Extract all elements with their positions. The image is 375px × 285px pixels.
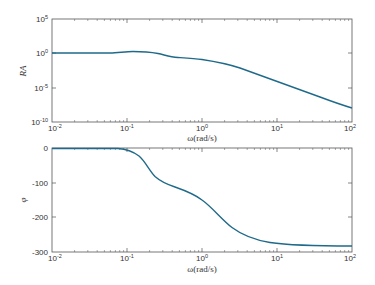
magnitude-y-ticks bbox=[52, 53, 352, 88]
magnitude-xtick-1e-1: 10-1 bbox=[120, 123, 134, 133]
magnitude-xlabel: ω(rad/s) bbox=[187, 133, 216, 143]
magnitude-ytick-1e-5: 10-5 bbox=[34, 83, 48, 93]
phase-xlabel: ω(rad/s) bbox=[187, 264, 216, 274]
phase-xtick-1e2: 102 bbox=[344, 253, 356, 263]
magnitude-ytick-1e-10: 10-10 bbox=[31, 117, 48, 127]
phase-ytick-neg100: -100 bbox=[32, 179, 49, 188]
magnitude-ytick-1e5: 105 bbox=[36, 14, 48, 24]
bode-figure: 105 100 10-5 10-10 10-2 10-1 100 101 102… bbox=[0, 0, 375, 285]
magnitude-xtick-1e-2: 10-2 bbox=[48, 123, 62, 133]
phase-plot: 0 -100 -200 -300 10-2 10-1 100 101 102 ω… bbox=[18, 144, 356, 274]
magnitude-curve bbox=[52, 52, 352, 109]
magnitude-axes-frame bbox=[52, 19, 352, 122]
phase-ylabel: φ bbox=[18, 197, 28, 202]
magnitude-xtick-1e2: 102 bbox=[344, 123, 356, 133]
magnitude-ylabel: RA bbox=[18, 65, 28, 77]
phase-curve bbox=[52, 149, 352, 247]
phase-ytick-neg200: -200 bbox=[32, 213, 49, 222]
phase-xtick-1e-2: 10-2 bbox=[48, 253, 62, 263]
magnitude-plot: 105 100 10-5 10-10 10-2 10-1 100 101 102… bbox=[18, 14, 356, 143]
magnitude-ytick-1e0: 100 bbox=[36, 48, 48, 58]
phase-xtick-1e1: 101 bbox=[271, 253, 283, 263]
phase-x-minor-ticks bbox=[75, 148, 349, 252]
phase-xtick-1e-1: 10-1 bbox=[120, 253, 134, 263]
magnitude-xtick-1e1: 101 bbox=[271, 123, 283, 133]
magnitude-xtick-1e0: 100 bbox=[196, 123, 208, 133]
phase-xtick-1e0: 100 bbox=[196, 253, 208, 263]
phase-ytick-0: 0 bbox=[44, 144, 49, 153]
magnitude-x-minor-ticks bbox=[75, 19, 349, 122]
phase-ytick-neg300: -300 bbox=[32, 248, 49, 257]
magnitude-x-ticks bbox=[127, 19, 277, 122]
